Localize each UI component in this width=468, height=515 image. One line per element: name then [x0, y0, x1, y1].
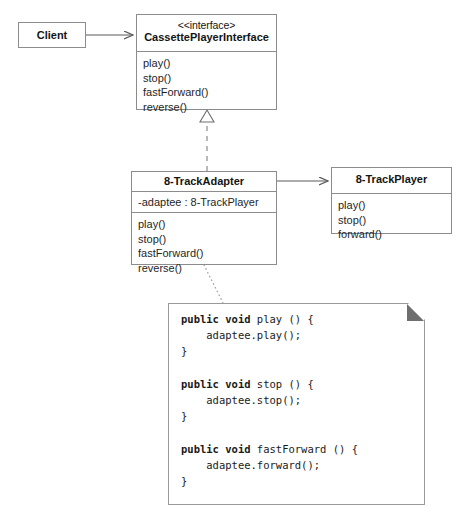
class-title-text: CassettePlayerInterface [144, 31, 269, 43]
connector-adapter-to-interface [200, 110, 214, 171]
method-item: reverse() [143, 100, 276, 115]
attributes-compartment-adapter: -adaptee : 8-TrackPlayer [132, 191, 276, 212]
class-stereotype-interface: <<interface> [141, 19, 272, 31]
attribute-item: -adaptee : 8-TrackPlayer [138, 195, 276, 210]
class-name-client: Client [37, 29, 68, 42]
class-name-8-track-adapter: 8-TrackAdapter [132, 172, 276, 191]
method-item: stop() [143, 71, 276, 86]
class-name-cassette-player-interface: <<interface> CassettePlayerInterface [137, 15, 276, 51]
method-item: fastForward() [143, 85, 276, 100]
method-item: play() [138, 217, 276, 232]
class-name-8-track-player: 8-TrackPlayer [332, 168, 451, 193]
methods-compartment-interface: play() stop() fastForward() reverse() [137, 51, 276, 118]
class-box-8-track-player[interactable]: 8-TrackPlayer play() stop() forward() [331, 167, 452, 234]
method-item: forward() [338, 227, 451, 242]
method-item: reverse() [138, 261, 276, 276]
method-item: fastForward() [138, 246, 276, 261]
class-box-client[interactable]: Client [18, 22, 86, 48]
code-note[interactable]: public void play () { adaptee.play(); } … [168, 303, 425, 505]
method-item: play() [143, 56, 276, 71]
class-box-8-track-adapter[interactable]: 8-TrackAdapter -adaptee : 8-TrackPlayer … [131, 171, 277, 265]
methods-compartment-adapter: play() stop() fastForward() reverse() [132, 212, 276, 279]
method-item: play() [338, 198, 451, 213]
methods-compartment-player: play() stop() forward() [332, 193, 451, 246]
class-box-cassette-player-interface[interactable]: <<interface> CassettePlayerInterface pla… [136, 14, 277, 110]
method-item: stop() [138, 232, 276, 247]
note-code-text: public void play () { adaptee.play(); } … [181, 311, 396, 515]
method-item: stop() [338, 213, 451, 228]
